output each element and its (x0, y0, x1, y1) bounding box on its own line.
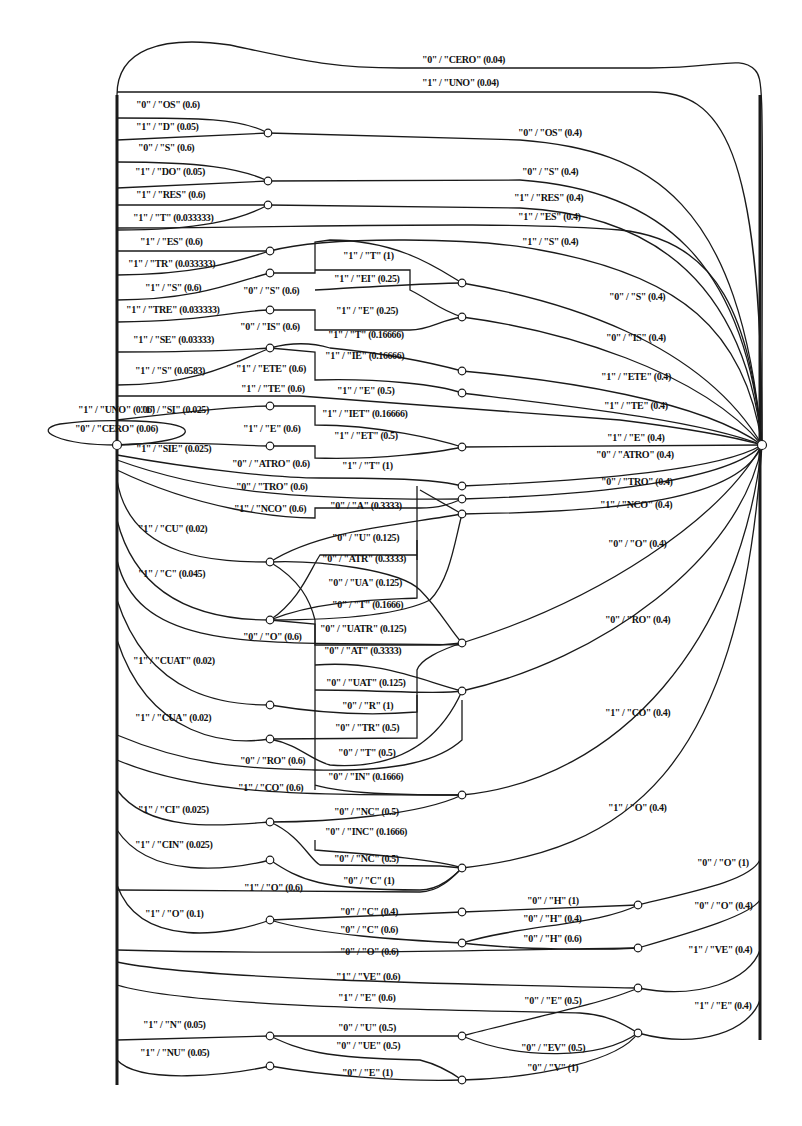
edge-label: "0" / "T" (0.5) (338, 747, 395, 759)
edge (315, 690, 462, 693)
edge (117, 348, 270, 352)
edge-label: "1" / "T" (1) (343, 250, 394, 262)
state-node-n6 (266, 306, 274, 314)
state-node-n34 (266, 1032, 274, 1040)
edge-label: "0" / "C" (0.4) (340, 906, 398, 918)
state-node-n16 (458, 495, 466, 503)
edge-label: "1" / "EI" (0.25) (334, 273, 399, 285)
state-node-n19 (266, 616, 274, 624)
edge-label: "0" / "IS" (0.4) (606, 332, 666, 344)
edge-label: "0" / "S" (0.6) (243, 285, 299, 297)
edge-label: "0" / "C" (1) (343, 875, 394, 887)
edge-label: "1" / "E" (0.6) (338, 992, 395, 1004)
edge-label: "0" / "RO" (0.6) (240, 755, 305, 767)
state-node-n25 (266, 818, 274, 826)
state-node-n20 (458, 639, 466, 647)
edge-label: "0" / "NC" (0.5) (334, 806, 399, 818)
edge-label: "1" / "RES" (0.6) (136, 189, 205, 201)
edge-label: "0" / "H" (1) (527, 895, 579, 907)
edge-label: "1" / "CO" (0.4) (605, 707, 670, 719)
edge-label: "0" / "O" (0.4) (694, 900, 752, 912)
edge-label: "1" / "CUA" (0.02) (135, 712, 211, 724)
edge-label: "1" / "NCO" (0.6) (234, 503, 306, 515)
state-node-n8 (266, 402, 274, 410)
state-node-n18 (266, 558, 274, 566)
state-node-n36 (458, 1032, 466, 1040)
edge-label: "0" / "E" (1) (342, 1067, 393, 1079)
edge-label: "0" / "O" (0.6) (340, 946, 398, 958)
edge-label: "1" / "SIE" (0.025) (136, 443, 211, 455)
edge (417, 486, 462, 560)
edge-label: "0" / "U" (0.125) (332, 532, 399, 544)
state-node-n10 (458, 279, 466, 287)
state-nodes (113, 129, 767, 1084)
edge-label: "1" / "CUAT" (0.02) (133, 655, 215, 667)
edge (315, 785, 462, 795)
state-node-n38 (458, 1076, 466, 1084)
state-node-n3 (264, 201, 272, 209)
edge (270, 446, 462, 458)
edge-label: "1" / "S" (0.6) (145, 282, 201, 294)
edge (117, 1060, 270, 1076)
edge-label: "0" / "H" (0.4) (523, 913, 581, 925)
edge-label: "0" / "E" (0.5) (524, 995, 581, 1007)
edge-label: "0" / "S" (0.4) (522, 166, 578, 178)
edge-label: "0" / "IN" (0.1666) (328, 771, 403, 783)
state-node-n35 (266, 1062, 274, 1070)
edge-label: "1" / "S" (0.4) (522, 236, 578, 248)
state-node-n32 (634, 944, 642, 952)
edge (117, 600, 270, 705)
edge-label: "0" / "ATRO" (0.4) (596, 449, 674, 461)
edge-label: "1" / "E" (0.6) (243, 423, 300, 435)
edge-label: "1" / "D" (0.05) (136, 121, 199, 133)
edge-labels: "0" / "CERO" (0.04)"1" / "UNO" (0.04)"0"… (75, 54, 752, 1079)
edge (462, 445, 762, 447)
edge-label: "0" / "UA" (0.125) (328, 577, 402, 589)
edge-label: "0" / "EV" (0.5) (521, 1042, 585, 1054)
edge-label: "0" / "UATR" (0.125) (320, 623, 406, 635)
edge (117, 181, 268, 188)
state-node-n27 (458, 864, 466, 872)
edge-label: "1" / "T" (0.16666) (328, 329, 404, 341)
state-node-start (113, 441, 122, 450)
edge-label: "1" / "TRE" (0.033333) (126, 304, 219, 316)
edge-label: "1" / "VE" (0.4) (688, 944, 752, 956)
edge-cero (117, 42, 762, 445)
edge-label: "0" / "ATRO" (0.6) (232, 458, 310, 470)
edge-label: "1" / "IE" (0.16666) (325, 350, 404, 362)
edge-label: "1" / "TR" (0.033333) (128, 258, 215, 270)
edge-label: "0" / "CERO" (0.04) (422, 54, 505, 66)
edge-label: "1" / "NU" (0.05) (140, 1047, 209, 1059)
edge-label: "0" / "CERO" (0.06) (75, 423, 158, 435)
state-node-n4 (266, 247, 274, 255)
transducer-diagram: "0" / "CERO" (0.04)"1" / "UNO" (0.04)"0"… (0, 0, 802, 1126)
edge (117, 1036, 270, 1040)
edge-label: "1" / "E" (0.4) (694, 1000, 751, 1012)
edge-label: "1" / "ES" (0.6) (140, 236, 203, 248)
edge-label: "0" / "V" (1) (527, 1062, 578, 1074)
edge-label: "1" / "SE" (0.03333) (133, 334, 214, 346)
edge-label: "1" / "TE" (0.4) (604, 400, 668, 412)
edge-label: "1" / "O" (0.1) (145, 908, 203, 920)
state-node-n11 (458, 313, 466, 321)
state-node-n22 (266, 701, 274, 709)
edge (462, 905, 638, 912)
edge (315, 283, 462, 290)
edge-label: "0" / "UE" (0.5) (336, 1040, 400, 1052)
edge-label: "1" / "TE" (0.6) (241, 383, 305, 395)
state-node-n33 (634, 984, 642, 992)
state-node-n37 (634, 1029, 642, 1037)
edge-label: "0" / "TRO" (0.4) (601, 476, 673, 488)
edge-label: "0" / "RO" (0.4) (605, 614, 670, 626)
edge-label: "0" / "A" (0.3333) (330, 500, 402, 512)
edge-label: "1" / "SI" (0.025) (140, 404, 209, 416)
edge-label: "1" / "VE" (0.6) (336, 971, 400, 983)
edge-label: "1" / "E" (0.5) (337, 385, 394, 397)
state-node-n31 (634, 901, 642, 909)
edge-label: "1" / "CU" (0.02) (138, 523, 207, 535)
state-node-n24 (458, 791, 466, 799)
state-node-n26 (266, 856, 274, 864)
edge-label: "0" / "S" (0.6) (138, 142, 194, 154)
state-node-n23 (266, 735, 274, 743)
edge-label: "0" / "S" (0.4) (609, 291, 665, 303)
